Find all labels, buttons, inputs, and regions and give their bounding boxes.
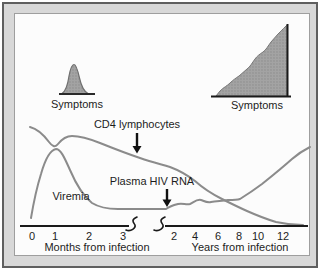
x-tick-year-2: 2 <box>171 231 177 242</box>
hiv-progression-chart <box>0 0 324 274</box>
cd4-label: CD4 lymphocytes <box>94 118 180 130</box>
symptoms-late-label: Symptoms <box>231 99 283 111</box>
figure-root: Symptoms Symptoms CD4 lymphocytes Plasma… <box>0 0 324 274</box>
symptoms-acute-label: Symptoms <box>51 98 103 110</box>
months-axis-caption: Months from infection <box>44 241 149 253</box>
axis-break-icon <box>154 217 165 231</box>
symptoms-late-wedge <box>211 24 291 97</box>
plasma-hiv-rna-down-arrow-icon <box>163 189 172 207</box>
symptoms-acute-bell <box>59 65 95 95</box>
cd4-down-arrow-icon <box>133 133 142 154</box>
years-axis-caption: Years from infection <box>192 241 289 253</box>
plasma-hiv-rna-label: Plasma HIV RNA <box>110 175 194 187</box>
viremia-label: Viremia <box>52 190 89 202</box>
x-tick-month-0: 0 <box>29 231 35 242</box>
axis-break-icon <box>126 217 137 231</box>
